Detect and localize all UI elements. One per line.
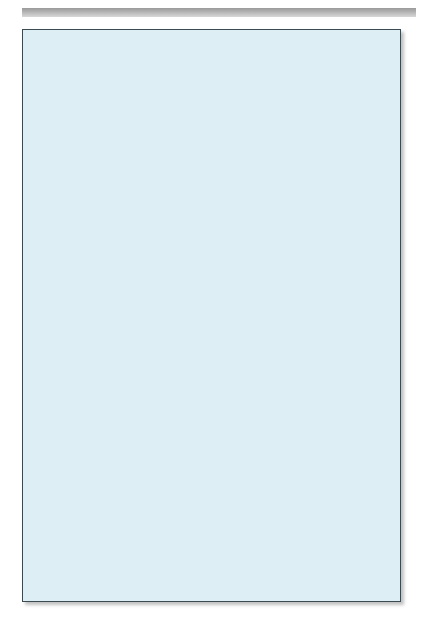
figure-panel (22, 29, 401, 602)
header-rule (22, 8, 416, 17)
chart-svg (23, 30, 399, 600)
